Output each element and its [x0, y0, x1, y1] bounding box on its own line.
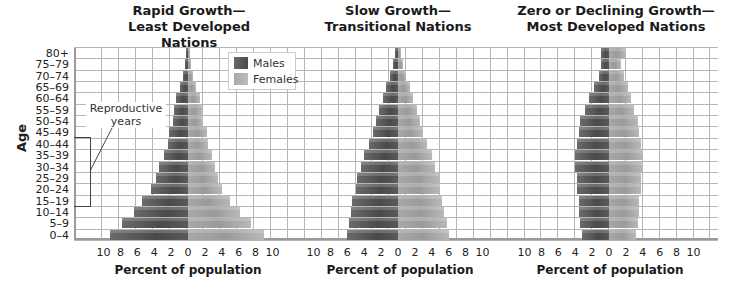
bar-females-40–44: [398, 139, 427, 149]
grid-line-vertical: [118, 47, 119, 240]
age-label: 0–4: [9, 230, 69, 241]
x-tick-label: 6: [344, 246, 351, 259]
bar-males-5–9: [580, 218, 609, 228]
bar-males-60–64: [383, 93, 398, 103]
bar-males-5–9: [349, 218, 398, 228]
grid-line-vertical: [574, 47, 575, 240]
bar-males-40–44: [577, 139, 609, 149]
bar-males-10–14: [579, 207, 609, 217]
bar-females-60–64: [398, 93, 413, 103]
bar-males-25–29: [357, 173, 398, 183]
age-label: 5–9: [9, 218, 69, 229]
bar-females-70–74: [188, 71, 193, 81]
bar-females-10–14: [398, 207, 444, 217]
x-tick-label: 2: [378, 246, 385, 259]
x-tick-label: 10: [687, 246, 701, 259]
bar-females-30–34: [609, 162, 643, 172]
grid-line-vertical: [321, 47, 322, 240]
bar-females-20–24: [609, 184, 641, 194]
bar-females-35–39: [398, 150, 432, 160]
x-tick-label: 6: [445, 246, 452, 259]
x-tick-label: 6: [134, 246, 141, 259]
chart-title-rapid-growth: Rapid Growth— Least Developed Nations: [104, 3, 274, 51]
bar-males-55–59: [379, 105, 398, 115]
bar-males-35–39: [364, 150, 398, 160]
bar-females-55–59: [188, 105, 202, 115]
bar-males-50–54: [376, 116, 398, 126]
chart-title-slow-growth: Slow Growth— Transitional Nations: [313, 3, 483, 35]
age-label: 75–79: [9, 59, 69, 70]
grid-line-horizontal: [74, 240, 718, 241]
grid-line-vertical: [557, 47, 558, 240]
bar-males-5–9: [122, 218, 188, 228]
bar-males-45–49: [579, 127, 609, 137]
bar-males-20–24: [577, 184, 609, 194]
plot-grid: [74, 47, 718, 240]
bar-females-5–9: [398, 218, 447, 228]
x-tick-label: 2: [411, 246, 418, 259]
bar-males-25–29: [156, 173, 188, 183]
title-line-2: Most Developed Nations: [516, 19, 716, 35]
x-tick-label: 10: [476, 246, 490, 259]
bar-males-25–29: [577, 173, 609, 183]
bar-females-25–29: [609, 173, 641, 183]
age-label: 35–39: [9, 150, 69, 161]
bar-males-35–39: [575, 150, 609, 160]
females-swatch-icon: [234, 73, 248, 85]
x-tick-label: 6: [555, 246, 562, 259]
grid-line-vertical: [709, 47, 710, 240]
title-line-1: Slow Growth—: [313, 3, 483, 19]
reproductive-years-annotation: Reproductive years: [86, 102, 166, 128]
grid-line-vertical: [642, 47, 643, 240]
bar-males-50–54: [173, 116, 188, 126]
bar-females-20–24: [188, 184, 222, 194]
bar-males-15–19: [579, 196, 609, 206]
x-tick-label: 0: [395, 246, 402, 259]
bar-females-25–29: [188, 173, 218, 183]
bar-males-30–34: [361, 162, 398, 172]
bar-females-50–54: [398, 116, 420, 126]
bar-males-20–24: [356, 184, 398, 194]
bar-females-45–49: [188, 127, 207, 137]
x-tick-label: 8: [673, 246, 680, 259]
bar-females-40–44: [188, 139, 208, 149]
age-label: 50–54: [9, 116, 69, 127]
age-label: 55–59: [9, 105, 69, 116]
bar-females-55–59: [398, 105, 417, 115]
age-label: 45–49: [9, 127, 69, 138]
bar-females-45–49: [398, 127, 423, 137]
bar-males-70–74: [599, 71, 609, 81]
x-tick-label: 8: [117, 246, 124, 259]
bar-females-50–54: [609, 116, 638, 126]
bar-males-30–34: [159, 162, 188, 172]
bar-females-35–39: [609, 150, 643, 160]
grid-line-vertical: [693, 47, 694, 240]
bar-males-35–39: [164, 150, 188, 160]
grid-line-vertical: [473, 47, 474, 240]
bar-females-5–9: [188, 218, 251, 228]
legend-item-females: Females: [234, 72, 299, 86]
x-tick-label: 8: [538, 246, 545, 259]
bar-females-70–74: [609, 71, 624, 81]
bar-females-55–59: [609, 105, 634, 115]
annotation-line-2: years: [86, 115, 166, 128]
reproductive-years-bracket: [74, 137, 91, 207]
age-label: 70–74: [9, 71, 69, 82]
x-tick-label: 2: [622, 246, 629, 259]
bar-females-75–79: [398, 59, 403, 69]
bar-males-10–14: [134, 207, 188, 217]
grid-line-vertical: [490, 47, 491, 240]
age-label: 30–34: [9, 162, 69, 173]
bar-females-30–34: [398, 162, 435, 172]
x-tick-label: 2: [168, 246, 175, 259]
bar-females-80+: [398, 48, 401, 58]
bar-males-60–64: [176, 93, 188, 103]
grid-line-vertical: [659, 47, 660, 240]
bar-males-65–69: [180, 82, 188, 92]
chart-title-zero-growth: Zero or Declining Growth— Most Developed…: [516, 3, 716, 35]
bar-females-75–79: [609, 59, 621, 69]
bar-males-15–19: [352, 196, 398, 206]
legend-item-males: Males: [234, 56, 285, 70]
bar-females-0–4: [188, 230, 264, 240]
bar-females-5–9: [609, 218, 638, 228]
